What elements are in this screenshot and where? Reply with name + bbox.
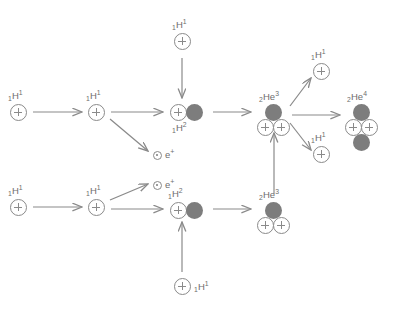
- helium-3-lower-label: 2He3: [259, 190, 279, 200]
- proton-icon: [257, 119, 274, 136]
- positron-upper: e+: [153, 151, 162, 160]
- neutron-icon: [186, 104, 203, 121]
- hydrogen-1-bottom-feed: 1H1: [174, 278, 191, 295]
- helium-4-output-label: 2He4: [347, 92, 367, 102]
- hydrogen-1-upper-row-second-label: 1H1: [86, 91, 101, 101]
- deuterium-upper-label: 1H2: [172, 123, 187, 133]
- proton-icon: [88, 199, 105, 216]
- hydrogen-1-output-lower-label: 1H1: [311, 133, 326, 143]
- hydrogen-1-top-feed: 1H1: [174, 33, 191, 50]
- proton-icon: [10, 104, 27, 121]
- hydrogen-1-upper-row-second: 1H1: [88, 104, 105, 121]
- pp-chain-diagram: 1H11H11H11H2e+2He31H11H1e+1H21H12He31H11…: [0, 0, 395, 314]
- proton-icon: [313, 63, 330, 80]
- deuterium-lower: 1H2: [170, 202, 203, 219]
- proton-icon: [273, 217, 290, 234]
- hydrogen-1-output-upper-label: 1H1: [311, 50, 326, 60]
- hydrogen-1-bottom-input: 1H1: [10, 199, 27, 216]
- proton-icon: [174, 33, 191, 50]
- proton-icon: [170, 104, 187, 121]
- proton-icon: [174, 278, 191, 295]
- deuterium-upper: 1H2: [170, 104, 203, 121]
- hydrogen-1-lower-row-second-label: 1H1: [86, 186, 101, 196]
- proton-icon: [257, 217, 274, 234]
- hydrogen-1-output-lower: 1H1: [313, 146, 330, 163]
- deuterium-lower-label: 1H2: [168, 189, 183, 199]
- hydrogen-1-output-upper: 1H1: [313, 63, 330, 80]
- hydrogen-1-top-input-label: 1H1: [8, 91, 23, 101]
- proton-icon: [88, 104, 105, 121]
- proton-icon: [170, 202, 187, 219]
- helium-3-upper-label: 2He3: [259, 92, 279, 102]
- hydrogen-1-top-input: 1H1: [10, 104, 27, 121]
- neutron-icon: [186, 202, 203, 219]
- hydrogen-1-lower-row-second: 1H1: [88, 199, 105, 216]
- neutron-icon: [353, 134, 370, 151]
- proton-icon: [313, 146, 330, 163]
- arrow-h1e-to-eb: [110, 184, 148, 200]
- helium-4-output: 2He4: [345, 104, 378, 151]
- proton-icon: [273, 119, 290, 136]
- arrow-he3a-to-h1g: [290, 78, 311, 106]
- arrow-h1b-to-ea: [110, 119, 148, 151]
- positron-icon: [153, 151, 162, 160]
- positron-upper-label: e+: [165, 150, 174, 160]
- arrow-layer: [0, 0, 395, 314]
- proton-icon: [10, 199, 27, 216]
- helium-3-lower: 2He3: [257, 202, 290, 234]
- positron-lower: e+: [153, 181, 162, 190]
- hydrogen-1-top-feed-label: 1H1: [172, 20, 187, 30]
- hydrogen-1-bottom-feed-label: 1H1: [194, 282, 209, 292]
- arrow-he3a-to-h1h: [290, 123, 311, 150]
- helium-3-upper: 2He3: [257, 104, 290, 136]
- hydrogen-1-bottom-input-label: 1H1: [8, 186, 23, 196]
- positron-icon: [153, 181, 162, 190]
